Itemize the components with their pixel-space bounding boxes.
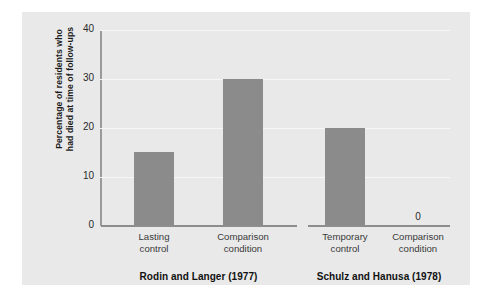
category-label-line-2: condition <box>372 243 464 255</box>
gridline-40 <box>100 30 450 31</box>
chart-figure: Percentage of residents who had died at … <box>22 12 470 285</box>
gridline-30 <box>100 79 450 80</box>
bar-rodin-lasting-control <box>134 152 174 225</box>
y-tick-label-0: 0 <box>50 219 94 230</box>
y-axis-title-line-2: had died at time of follow-ups <box>65 27 76 151</box>
y-tick-label-20: 20 <box>50 121 94 132</box>
category-label-line-2: condition <box>197 243 289 255</box>
category-label-line-1: Comparison <box>372 231 464 243</box>
bar-schulz-temporary-control <box>325 128 365 225</box>
bar-rodin-comparison-condition <box>223 79 263 225</box>
y-tick-label-30: 30 <box>50 72 94 83</box>
bar-value-label-zero: 0 <box>403 211 433 222</box>
baseline-group-schulz <box>308 225 450 227</box>
category-label-line-1: Lasting <box>108 231 200 243</box>
group-label-schulz-and-hanusa: Schulz and Hanusa (1978) <box>308 271 450 282</box>
category-label-rodin-comparison-condition: Comparison condition <box>197 231 289 254</box>
category-label-lasting-control: Lasting control <box>108 231 200 254</box>
category-label-schulz-comparison-condition: Comparison condition <box>372 231 464 254</box>
category-label-line-1: Comparison <box>197 231 289 243</box>
gridline-20 <box>100 128 450 129</box>
y-tick-label-10: 10 <box>50 170 94 181</box>
group-label-rodin-and-langer: Rodin and Langer (1977) <box>100 271 297 282</box>
category-label-line-2: control <box>108 243 200 255</box>
y-tick-label-40: 40 <box>50 23 94 34</box>
plot-area: 40 30 20 10 0 0 Lasting control Comparis… <box>100 30 450 225</box>
baseline-group-rodin <box>101 225 297 227</box>
